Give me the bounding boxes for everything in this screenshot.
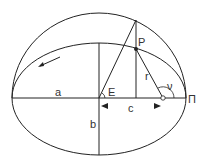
label-c: c bbox=[128, 102, 134, 114]
radius-vector bbox=[136, 49, 163, 98]
kepler-orbit-diagram: a b c E P r ν Π bbox=[0, 0, 204, 162]
motion-arrowhead-icon bbox=[38, 62, 44, 67]
label-nu: ν bbox=[167, 80, 173, 92]
label-b: b bbox=[90, 118, 96, 130]
c-right-arrow-icon bbox=[154, 103, 161, 109]
c-left-arrow-icon bbox=[101, 103, 108, 109]
label-pi: Π bbox=[188, 93, 196, 105]
angle-e-arc bbox=[102, 93, 105, 98]
label-e: E bbox=[108, 86, 115, 98]
label-a: a bbox=[55, 86, 62, 98]
eccentric-radius bbox=[99, 20, 136, 98]
label-p: P bbox=[138, 36, 145, 48]
label-r: r bbox=[145, 70, 149, 82]
focus-point bbox=[161, 96, 165, 100]
